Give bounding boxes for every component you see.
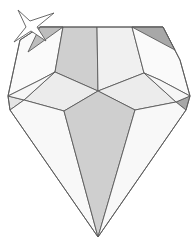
diamond-illustration <box>0 0 195 245</box>
diamond-svg <box>0 0 195 245</box>
